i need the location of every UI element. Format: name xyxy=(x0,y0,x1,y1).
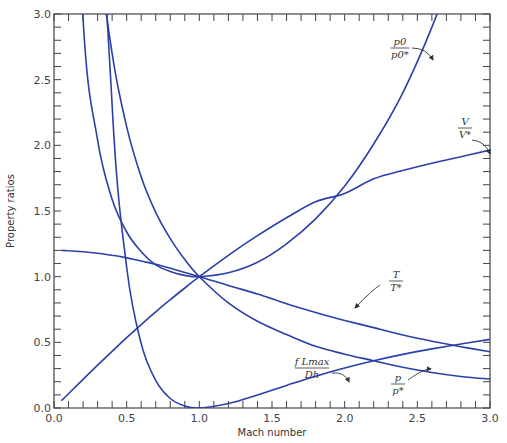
curve-t-t- xyxy=(61,250,490,351)
svg-text:V*: V* xyxy=(459,129,471,140)
x-tick-label: 0.5 xyxy=(118,412,136,425)
y-tick-label: 2.5 xyxy=(34,74,52,87)
label-p-p-: pp* xyxy=(391,369,431,396)
x-tick-label: 3.0 xyxy=(481,412,499,425)
x-tick-label: 2.0 xyxy=(336,412,354,425)
x-axis-title: Mach number xyxy=(238,427,308,438)
svg-text:f Lmax: f Lmax xyxy=(294,356,330,367)
curves xyxy=(61,0,490,408)
y-tick-label: 1.0 xyxy=(34,271,52,284)
curve-flmax-dh xyxy=(61,0,490,408)
fanno-flow-chart: 0.00.51.01.52.02.53.00.00.51.01.52.02.53… xyxy=(0,0,507,443)
svg-text:p*: p* xyxy=(392,385,403,396)
x-tick-label: 1.0 xyxy=(191,412,209,425)
axes-frame: 0.00.51.01.52.02.53.00.00.51.01.52.02.53… xyxy=(34,8,499,425)
label-v-v-: VV* xyxy=(458,116,490,154)
y-tick-label: 0.5 xyxy=(34,336,52,349)
curve-p0-p0- xyxy=(61,0,490,277)
curve-v-v- xyxy=(61,150,490,401)
svg-text:V: V xyxy=(461,116,470,127)
y-axis-title: Property ratios xyxy=(5,174,16,248)
svg-text:Dh: Dh xyxy=(304,369,319,380)
svg-text:p0: p0 xyxy=(394,36,407,47)
y-tick-label: 1.5 xyxy=(34,205,52,218)
x-tick-label: 2.5 xyxy=(409,412,427,425)
curve-p-p- xyxy=(61,0,490,379)
curve-labels: p0p0*VV*TT*pp*f LmaxDh xyxy=(294,36,490,396)
x-tick-label: 1.5 xyxy=(263,412,281,425)
label-t-t-: TT* xyxy=(355,269,403,308)
svg-text:T*: T* xyxy=(390,282,402,293)
svg-text:p0*: p0* xyxy=(391,49,409,60)
y-tick-label: 2.0 xyxy=(34,139,52,152)
svg-text:T: T xyxy=(393,269,401,280)
y-tick-label: 0.0 xyxy=(34,402,52,415)
svg-text:p: p xyxy=(395,372,402,383)
y-tick-label: 3.0 xyxy=(34,8,52,21)
